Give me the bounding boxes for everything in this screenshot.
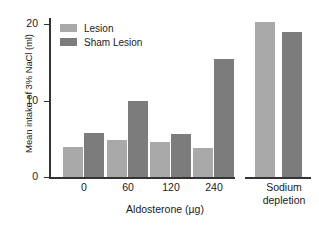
x-group-label-sodium-depletion: Sodium depletion bbox=[252, 181, 316, 207]
legend-item-lesion: Lesion bbox=[60, 22, 142, 34]
y-tick-label-10: 10 bbox=[26, 94, 38, 107]
bar-lesion-sodium-depletion bbox=[255, 22, 275, 177]
bar-sham-lesion-sodium-depletion bbox=[282, 32, 302, 177]
bar-lesion-60 bbox=[107, 140, 127, 177]
legend: Lesion Sham Lesion bbox=[60, 22, 142, 50]
x-axis-line-aldosterone bbox=[49, 177, 235, 179]
bar-lesion-120 bbox=[150, 142, 170, 177]
x-tick-label-120: 120 bbox=[150, 181, 192, 193]
y-tick-label-20: 20 bbox=[26, 17, 38, 30]
bar-sham-lesion-0 bbox=[84, 133, 104, 177]
legend-swatch-sham-lesion-icon bbox=[60, 38, 77, 46]
x-tick-label-0: 0 bbox=[63, 181, 105, 193]
legend-label-lesion: Lesion bbox=[84, 23, 113, 34]
x-axis-label: Aldosterone (µg) bbox=[100, 203, 230, 215]
x-group-label-sodium-line1: Sodium bbox=[252, 181, 316, 194]
bar-chart-figure: Mean intake of 3% NaCl (ml) 20 10 0 bbox=[0, 0, 319, 225]
x-tick-label-60: 60 bbox=[107, 181, 149, 193]
legend-item-sham-lesion: Sham Lesion bbox=[60, 36, 142, 48]
x-axis-line-sodium bbox=[245, 177, 311, 179]
bar-lesion-0 bbox=[63, 147, 83, 177]
y-tick-label-0: 0 bbox=[32, 170, 38, 183]
legend-label-sham-lesion: Sham Lesion bbox=[84, 37, 142, 48]
bar-lesion-240 bbox=[193, 148, 213, 177]
x-tick-label-240: 240 bbox=[193, 181, 235, 193]
x-group-label-sodium-line2: depletion bbox=[252, 194, 316, 207]
legend-swatch-lesion-icon bbox=[60, 24, 77, 32]
bar-sham-lesion-120 bbox=[171, 134, 191, 177]
bar-sham-lesion-240 bbox=[214, 59, 234, 177]
bar-sham-lesion-60 bbox=[128, 101, 148, 177]
